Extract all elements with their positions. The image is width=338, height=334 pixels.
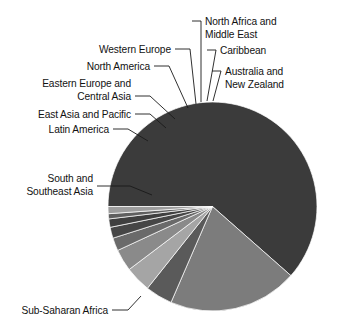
pie-slices-group: Sub-Saharan Africa: 61.5%South and South… (108, 102, 317, 311)
label-australia-line1: Australia and (225, 66, 284, 77)
label-australia-line2: New Zealand (225, 79, 284, 90)
label-east-asia-pacific: East Asia and Pacific (38, 109, 131, 120)
label-western-europe: Western Europe (99, 44, 171, 55)
label-north-africa-line2: Middle East (205, 29, 257, 40)
pie-chart-svg: Sub-Saharan Africa: 61.5%South and South… (0, 0, 338, 334)
label-south-southeast-asia-line1: South and (47, 173, 93, 184)
label-north-africa-line1: North Africa and (205, 16, 277, 27)
label-caribbean: Caribbean (220, 45, 266, 56)
label-eastern-europe-line2: Central Asia (77, 91, 131, 102)
label-latin-america: Latin America (49, 124, 110, 135)
pie-chart-figure: Sub-Saharan Africa: 61.5%South and South… (0, 0, 338, 334)
label-sub-saharan-africa: Sub-Saharan Africa (21, 305, 108, 316)
label-eastern-europe-line1: Eastern Europe and (42, 78, 131, 89)
label-north-america: North America (87, 61, 151, 72)
label-south-southeast-asia-line2: Southeast Asia (26, 186, 93, 197)
